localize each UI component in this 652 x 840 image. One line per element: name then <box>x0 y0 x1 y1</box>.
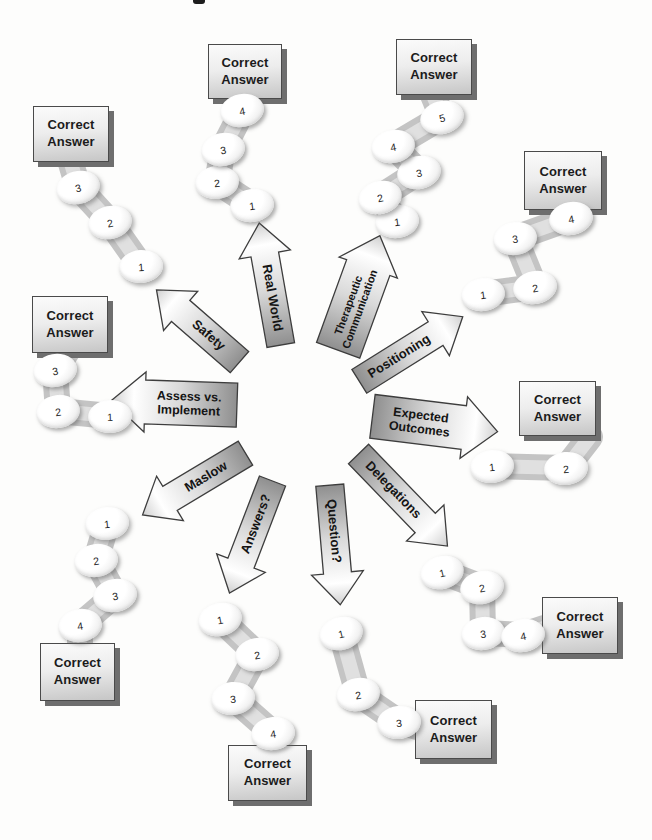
correct-answer-box-safety: Correct Answer <box>33 106 109 162</box>
correct-answer-label: Correct Answer <box>41 117 101 151</box>
correct-answer-box-question: Correct Answer <box>415 700 492 759</box>
correct-answer-box-answers: Correct Answer <box>228 745 307 801</box>
correct-answer-box-delegations: Correct Answer <box>542 597 618 654</box>
correct-answer-label: Correct Answer <box>238 756 298 790</box>
arrow-assess-vs-implement: Assess vs. Implement <box>110 369 238 437</box>
arrow-label-assess-vs-implement: Assess vs. Implement <box>142 370 236 437</box>
correct-answer-label: Correct Answer <box>424 713 484 747</box>
correct-answer-label: Correct Answer <box>550 609 610 643</box>
scan-artifact <box>193 0 205 4</box>
arrow-question: Question? <box>301 483 369 608</box>
correct-answer-label: Correct Answer <box>404 50 464 84</box>
correct-answer-box-real-world: Correct Answer <box>208 44 282 99</box>
correct-answer-box-positioning: Correct Answer <box>524 151 602 210</box>
correct-answer-box-therapeutic-communication: Correct Answer <box>396 39 472 95</box>
correct-answer-label: Correct Answer <box>40 308 100 342</box>
correct-answer-label: Correct Answer <box>528 392 588 426</box>
correct-answer-box-assess-vs-implement: Correct Answer <box>32 296 108 353</box>
arrow-label-question: Question? <box>301 485 366 578</box>
correct-answer-box-expected-outcomes: Correct Answer <box>519 381 596 436</box>
ribbon-answers <box>220 619 273 733</box>
correct-answer-label: Correct Answer <box>215 55 275 89</box>
correct-answer-label: Correct Answer <box>48 655 108 689</box>
correct-answer-label: Correct Answer <box>533 164 593 198</box>
correct-answer-box-maslow: Correct Answer <box>40 643 115 701</box>
diagram-stage: Correct Answer Safety 1 2 3 Correct Answ… <box>0 0 652 840</box>
